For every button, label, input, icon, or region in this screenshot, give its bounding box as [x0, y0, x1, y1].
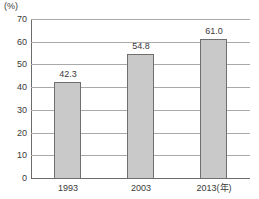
bar	[200, 39, 227, 179]
gridline	[31, 19, 250, 20]
bar-value-label: 42.3	[45, 70, 91, 79]
x-axis-tick-label: 2013(年)	[179, 183, 249, 193]
y-axis-tick-label: 40	[3, 83, 27, 92]
x-axis-tick-label: 1993	[33, 183, 103, 193]
bar-value-label: 54.8	[118, 42, 164, 51]
y-axis-tick-label: 30	[3, 106, 27, 115]
y-axis-tick-label: 10	[3, 151, 27, 160]
bar-value-label: 61.0	[191, 27, 237, 36]
y-axis-tick-label: 20	[3, 129, 27, 138]
y-axis-unit-label: (%)	[4, 1, 18, 11]
bar	[127, 54, 154, 179]
bar	[54, 82, 81, 179]
bar-chart: (%) 70605040302010042.3199354.8200361.02…	[0, 0, 259, 199]
y-axis-tick-label: 60	[3, 38, 27, 47]
x-axis-tick-label: 2003	[106, 183, 176, 193]
y-axis-tick-label: 0	[3, 174, 27, 183]
y-axis-tick-label: 50	[3, 60, 27, 69]
y-axis-tick-label: 70	[3, 15, 27, 24]
